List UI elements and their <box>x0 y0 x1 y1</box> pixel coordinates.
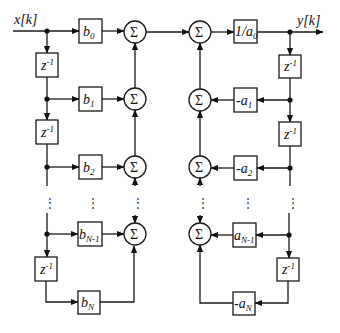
ellipsis: ⋮ <box>242 196 254 210</box>
svg-text:Σ: Σ <box>195 227 203 242</box>
delay-block-left-2: z-1 <box>36 120 58 144</box>
svg-text:Σ: Σ <box>195 25 203 40</box>
ellipsis: ⋮ <box>87 196 99 210</box>
svg-text:Σ: Σ <box>130 25 138 40</box>
svg-text:Σ: Σ <box>130 160 138 175</box>
sum-node-fb-0: Σ <box>189 21 211 43</box>
sum-node-ff-n-1: Σ <box>124 223 146 245</box>
ellipsis: ⋮ <box>197 196 209 210</box>
svg-text:Σ: Σ <box>130 92 138 107</box>
iir-direct-form-1-diagram: x[k] z-1 z-1 ⋮ z-1 b0 b1 b2 ⋮ bN-1 <box>0 0 340 333</box>
sum-node-ff-1: Σ <box>124 88 146 110</box>
sum-node-ff-0: Σ <box>124 21 146 43</box>
sum-node-fb-2: Σ <box>189 156 211 178</box>
delay-block-right-2: z-1 <box>279 122 301 146</box>
coef-neg-a1: -a1 <box>234 88 257 112</box>
coef-neg-a2: -a2 <box>234 156 257 180</box>
ellipsis: ⋮ <box>287 196 299 210</box>
sum-node-ff-2: Σ <box>124 156 146 178</box>
ellipsis: ⋮ <box>132 196 144 210</box>
sum-node-fb-1: Σ <box>189 89 211 111</box>
coef-b0: b0 <box>79 19 102 43</box>
coef-b1: b1 <box>79 87 102 111</box>
delay-block-left-n: z-1 <box>35 257 57 281</box>
delay-block-right-n: z-1 <box>277 258 299 281</box>
input-label: x[k] <box>13 12 37 27</box>
svg-text:Σ: Σ <box>195 160 203 175</box>
delay-block-right-1: z-1 <box>279 55 301 78</box>
coef-bN-1: bN-1 <box>78 222 102 246</box>
coef-neg-aN: -aN <box>233 292 255 315</box>
coef-bN: bN <box>78 291 100 314</box>
output-label: y[k] <box>295 13 320 28</box>
sum-node-fb-n-1: Σ <box>189 223 211 245</box>
delay-block-left-1: z-1 <box>36 53 58 77</box>
svg-text:Σ: Σ <box>195 93 203 108</box>
coef-aN-1: aN-1 <box>233 223 256 247</box>
ellipsis: ⋮ <box>44 196 56 210</box>
gain-1-over-a0: 1/a0 <box>234 20 258 43</box>
svg-text:Σ: Σ <box>130 227 138 242</box>
coef-b2: b2 <box>79 155 102 179</box>
